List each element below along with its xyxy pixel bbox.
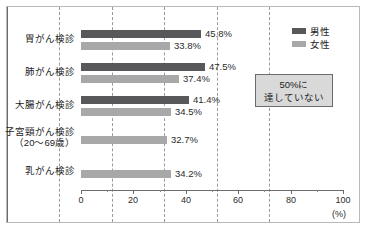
xtick-label-100: 100: [335, 195, 350, 205]
legend-label-male: 男性: [310, 24, 330, 38]
legend-label-female: 女性: [310, 37, 330, 51]
xtick-50: [212, 190, 213, 192]
gridline-0: [7, 7, 8, 222]
bar-value-lung-female: 37.4%: [183, 75, 210, 83]
annotation-callout-line1: 50%に: [279, 78, 308, 91]
chart-figure: 胃がん検診 肺がん検診 大腸がん検診 子宮頸がん検診 （20～69歳） 乳がん検…: [0, 0, 367, 230]
x-axis-unit-label: (%): [332, 209, 346, 219]
bar-value-colon-male: 41.4%: [193, 96, 220, 104]
xtick-100: [343, 190, 344, 194]
xtick-30: [160, 190, 161, 192]
category-label-breast-line1: 乳がん検診: [25, 165, 75, 176]
category-label-breast: 乳がん検診: [25, 165, 75, 176]
annotation-callout: 50%に 達していない: [255, 74, 333, 107]
bar-lung-male[interactable]: [81, 63, 205, 71]
bar-value-stomach-female: 33.8%: [174, 42, 201, 50]
bar-colon-male[interactable]: [81, 96, 189, 104]
bar-value-breast-female: 34.2%: [175, 170, 202, 178]
bar-value-colon-female: 34.5%: [175, 108, 202, 116]
legend: 男性 女性: [292, 25, 330, 51]
legend-swatch-male-icon: [292, 28, 306, 34]
bar-value-stomach-male: 45.8%: [205, 30, 232, 38]
xtick-80: [291, 190, 292, 194]
xtick-0: [81, 190, 82, 194]
category-label-stomach: 胃がん検診: [25, 33, 75, 44]
bar-cervix-female[interactable]: [81, 136, 167, 144]
bar-value-cervix-female: 32.7%: [171, 136, 198, 144]
category-label-colon-line1: 大腸がん検診: [15, 99, 75, 110]
category-label-cervix: 子宮頸がん検診 （20～69歳）: [5, 126, 75, 148]
bar-colon-female[interactable]: [81, 108, 171, 116]
xtick-90: [317, 190, 318, 192]
xtick-label-80: 80: [286, 195, 296, 205]
bar-lung-female[interactable]: [81, 75, 179, 83]
legend-item-female[interactable]: 女性: [292, 38, 330, 49]
bar-breast-female[interactable]: [81, 170, 171, 178]
xtick-label-0: 0: [78, 195, 83, 205]
category-label-colon: 大腸がん検診: [15, 99, 75, 110]
xtick-40: [186, 190, 187, 194]
xtick-60: [238, 190, 239, 194]
xtick-label-20: 20: [128, 195, 138, 205]
xtick-10: [107, 190, 108, 192]
category-label-cervix-line2: （20～69歳）: [5, 137, 75, 148]
xtick-label-60: 60: [233, 195, 243, 205]
category-label-lung: 肺がん検診: [25, 66, 75, 77]
category-label-stomach-line1: 胃がん検診: [25, 33, 75, 44]
bar-stomach-male[interactable]: [81, 30, 201, 38]
legend-swatch-female-icon: [292, 41, 306, 47]
category-label-cervix-line1: 子宮頸がん検診: [5, 126, 75, 137]
xtick-label-40: 40: [181, 195, 191, 205]
xtick-20: [133, 190, 134, 194]
legend-item-male[interactable]: 男性: [292, 25, 330, 36]
xtick-70: [264, 190, 265, 192]
annotation-callout-line2: 達していない: [264, 91, 324, 104]
bar-value-lung-male: 47.5%: [209, 63, 236, 71]
category-label-lung-line1: 肺がん検診: [25, 66, 75, 77]
bar-stomach-female[interactable]: [81, 42, 170, 50]
